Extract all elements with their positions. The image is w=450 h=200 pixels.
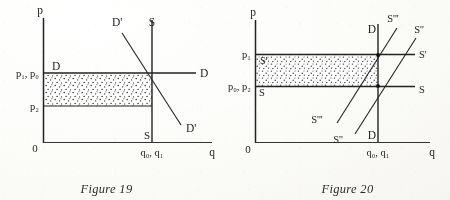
curve-label-supply-lower-right: S [419,84,425,95]
figure-20: p q 0 p₁ p₀, p₂ q₀, q₁ S' S' S S S''' S'… [225,0,450,200]
curve-label-supply-bottom: S [144,129,150,141]
price-tick-p1-p0: p₁, p₀ [16,68,39,79]
curve-label-supply-shallow-top: S'' [414,24,424,35]
curve-label-supply-lower-left: S [259,87,265,98]
curve-label-supply-top: S [149,16,155,28]
curve-label-supply-steep-top: S''' [387,13,399,24]
curve-label-supply-upper-left: S' [260,55,268,66]
figure-19-caption: Figure 19 [0,182,219,197]
y-axis-label: p [37,4,43,17]
origin-label: 0 [32,142,38,154]
shaded-region [44,74,152,106]
price-tick-p2: p₂ [30,101,39,112]
equilibrium-point-upper [376,53,380,57]
curve-label-demand-right: D [200,67,208,79]
figure-20-diagram: p q 0 p₁ p₀, p₂ q₀, q₁ S' S' S S S''' S'… [225,0,450,175]
price-tick-p1: p₁ [242,49,251,60]
figure-19: p q 0 p₁, p₀ p₂ q₀, q₁ D D D' D' S S Fig… [0,0,225,200]
curve-label-demand-shift-top: D' [112,16,122,28]
curve-label-supply-shallow-bottom: S'' [333,134,343,145]
page-canvas: p q 0 p₁, p₀ p₂ q₀, q₁ D D D' D' S S Fig… [0,0,450,200]
x-axis-label: q [429,146,435,159]
price-tick-p0-p2: p₀, p₂ [228,81,251,92]
quantity-tick-q0-q1: q₀, q₁ [366,147,389,158]
figure-19-diagram: p q 0 p₁, p₀ p₂ q₀, q₁ D D D' D' S S [0,0,225,175]
curve-label-supply-steep-bottom: S''' [311,114,323,125]
curve-label-supply-upper-right: S' [419,49,427,60]
figure-20-caption: Figure 20 [235,182,450,197]
equilibrium-point-lower [376,84,380,88]
curve-label-demand-shift-bottom: D' [186,122,196,134]
curve-label-demand-bottom: D [368,129,376,141]
y-axis-label: p [250,6,256,19]
curve-label-demand-left: D [52,60,60,72]
shaded-region [256,55,378,86]
x-axis-label: q [209,146,215,159]
curve-label-demand-top: D [368,23,376,35]
quantity-tick-q0-q1: q₀, q₁ [140,147,163,158]
origin-label: 0 [245,143,251,155]
